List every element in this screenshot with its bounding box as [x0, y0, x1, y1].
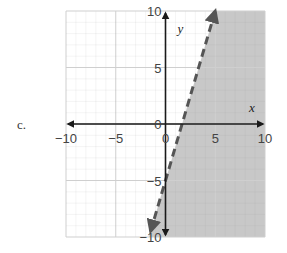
x-tick-label: −5 — [108, 131, 123, 146]
y-tick-label: −5 — [147, 174, 162, 189]
x-axis-label: x — [248, 100, 255, 115]
y-tick-label: 0 — [154, 117, 161, 132]
inequality-graph: −10−505101050−5−10xy — [0, 0, 287, 253]
y-tick-label: −10 — [139, 230, 161, 245]
x-tick-label: 10 — [258, 131, 272, 146]
x-tick-label: −10 — [55, 131, 77, 146]
y-tick-label: 5 — [154, 61, 161, 76]
x-tick-label: 5 — [212, 131, 219, 146]
y-tick-label: 10 — [147, 4, 161, 19]
x-tick-label: 0 — [162, 131, 169, 146]
y-axis-label: y — [176, 21, 184, 36]
